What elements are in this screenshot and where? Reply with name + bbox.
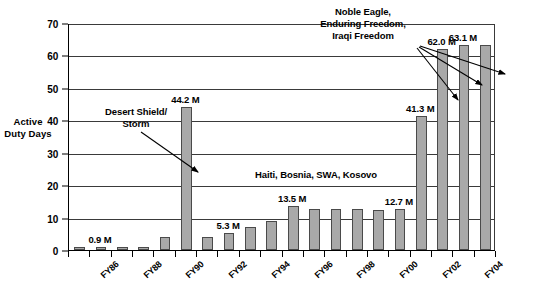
x-tick-label-FY92: FY92 (227, 259, 249, 280)
bar-value-label-FY90: 44.2 M (171, 94, 199, 105)
x-tick-label-FY88: FY88 (141, 259, 163, 280)
x-tick-label-FY96: FY96 (312, 259, 334, 280)
bar-FY00 (395, 209, 406, 250)
bar-value-label-FY95: 13.5 M (278, 193, 306, 204)
bar-value-label-FY01: 41.3 M (406, 103, 434, 114)
bar-FY95 (288, 206, 299, 250)
chart-figure: Active Duty Days 010203040506070 FY86FY8… (0, 0, 550, 302)
x-tick-label-FY90: FY90 (184, 259, 206, 280)
annotation-noble-eagle-enduring-iraqi: Noble Eagle, Enduring Freedom, Iraqi Fre… (275, 6, 451, 42)
bar-FY98 (352, 209, 363, 250)
bar-value-label-FY92: 5.3 M (216, 220, 239, 231)
x-tick-label-FY04: FY04 (483, 259, 505, 280)
y-tick-label-50: 50 (18, 83, 58, 94)
plot-area (68, 24, 495, 251)
annotation-desert-shield-storm: Desert Shield/ Storm (84, 106, 188, 130)
x-tick-mark-20 (495, 251, 496, 257)
x-tick-label-FY98: FY98 (355, 259, 377, 280)
x-tick-label-FY02: FY02 (440, 259, 462, 280)
y-tick-label-10: 10 (18, 213, 58, 224)
y-tick-label-0: 0 (18, 246, 58, 257)
bar-FY89 (160, 237, 171, 250)
bar-FY92 (224, 233, 235, 250)
y-tick-label-60: 60 (18, 51, 58, 62)
bar-value-label-FY86: 0.9 M (88, 234, 111, 245)
bar-FY88 (138, 247, 149, 250)
y-tick-label-70: 70 (18, 19, 58, 30)
bar-FY93 (245, 227, 256, 250)
x-tick-label-FY94: FY94 (269, 259, 291, 280)
bar-FY91 (202, 237, 213, 250)
x-tick-label-FY86: FY86 (99, 259, 121, 280)
y-tick-label-30: 30 (18, 148, 58, 159)
bar-FY04 (480, 45, 491, 250)
bar-FY85 (74, 247, 85, 250)
bar-value-label-FY00: 12.7 M (385, 196, 413, 207)
x-tick-label-FY00: FY00 (398, 259, 420, 280)
bar-value-label-FY03: 63.1 M (449, 32, 477, 43)
bar-FY99 (373, 210, 384, 250)
x-axis-labels: FY86FY88FY90FY92FY94FY96FY98FY00FY02FY04 (68, 255, 495, 302)
y-tick-label-40: 40 (18, 116, 58, 127)
bar-FY97 (331, 209, 342, 250)
annotation-haiti-bosnia-swa-kosovo: Haiti, Bosnia, SWA, Kosovo (223, 169, 409, 181)
bar-FY02 (437, 49, 448, 250)
bar-FY96 (309, 209, 320, 251)
bar-FY87 (117, 247, 128, 250)
bar-FY03 (459, 45, 470, 250)
bar-FY01 (416, 116, 427, 250)
bar-series (69, 24, 495, 250)
bar-FY86 (96, 247, 107, 250)
bar-FY94 (266, 221, 277, 250)
y-tick-label-20: 20 (18, 181, 58, 192)
y-axis: 010203040506070 (0, 24, 68, 251)
